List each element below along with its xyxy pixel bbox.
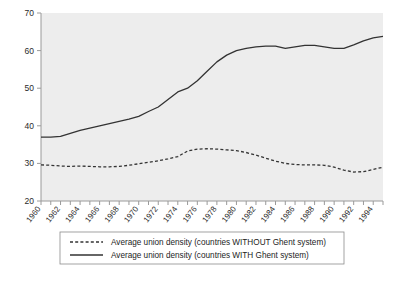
y-tick-label-70: 70 <box>25 8 35 18</box>
y-tick-label-50: 50 <box>25 83 35 93</box>
plot-area-background <box>41 13 383 201</box>
chart-legend: Average union density (countries WITHOUT… <box>60 232 344 264</box>
legend-label-with-ghent: Average union density (countries WITH Gh… <box>111 251 309 260</box>
y-tick-label-30: 30 <box>25 158 35 168</box>
line-chart: 203040506070 196019621964196619681970197… <box>0 0 408 282</box>
chart-figure: 203040506070 196019621964196619681970197… <box>0 0 408 282</box>
legend-label-without-ghent: Average union density (countries WITHOUT… <box>111 238 326 247</box>
y-tick-label-20: 20 <box>25 196 35 206</box>
y-tick-label-60: 60 <box>25 46 35 56</box>
y-tick-label-40: 40 <box>25 121 35 131</box>
